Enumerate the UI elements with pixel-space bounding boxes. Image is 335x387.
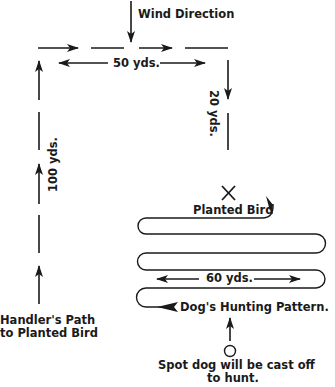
distance-100-yds-label: 100 yds. — [47, 137, 60, 192]
cast-off-spot-icon — [225, 346, 236, 357]
handler-path-label-line2: to Planted Bird — [0, 327, 86, 340]
cast-off-label-line2: to hunt. — [158, 372, 308, 385]
pattern-start-arrow-icon — [157, 302, 178, 312]
distance-60-yds-label: 60 yds. — [206, 272, 253, 285]
planted-bird-x-icon — [222, 186, 235, 200]
wind-direction-label: Wind Direction — [138, 8, 234, 21]
cast-off-label: Spot dog will be cast off to hunt. — [158, 359, 308, 385]
planted-bird-label: Planted Bird — [193, 204, 273, 217]
distance-50-yds-label: 50 yds. — [113, 57, 160, 70]
hunting-pattern-label: Dog's Hunting Pattern. — [180, 301, 329, 314]
training-diagram: Wind Direction 50 yds. 20 yds. 100 yds. … — [0, 0, 335, 387]
handler-path-label: Handler's Path to Planted Bird — [0, 314, 86, 340]
distance-20-yds-label: 20 yds. — [207, 90, 220, 137]
dog-hunting-pattern-path — [137, 204, 326, 307]
